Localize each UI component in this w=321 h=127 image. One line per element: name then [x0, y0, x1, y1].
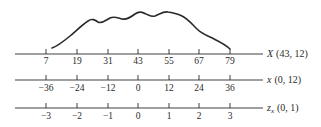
tick-label: 7 — [44, 56, 49, 66]
tick-label: 36 — [225, 83, 235, 93]
axis-label-z: zx(0, 1) — [266, 102, 299, 115]
axis-label-X: X(43, 12) — [266, 48, 308, 60]
tick-label: 12 — [164, 83, 174, 93]
distribution-curve — [52, 12, 230, 49]
tick-label: 67 — [194, 56, 204, 66]
tick-label: 31 — [103, 56, 113, 66]
tick-label: −3 — [41, 111, 51, 121]
tick-label: 55 — [164, 56, 174, 66]
axis-x-centered: −36 −24 −12 0 12 24 36 x(0, 12) — [15, 74, 301, 93]
tick-label: −2 — [72, 111, 82, 121]
tick-label: −36 — [39, 83, 54, 93]
tick-label: 79 — [225, 56, 235, 66]
axis-X: 7 19 31 43 55 67 79 X(43, 12) — [15, 48, 308, 66]
tick-label: −24 — [70, 83, 85, 93]
tick-label: 19 — [72, 56, 82, 66]
axis-z-standardized: −3 −2 −1 0 1 2 3 zx(0, 1) — [15, 102, 299, 121]
tick-label: −12 — [101, 83, 116, 93]
tick-label: 2 — [197, 111, 202, 121]
tick-label: 3 — [228, 111, 233, 121]
tick-label: 0 — [136, 83, 141, 93]
tick-label: 0 — [136, 111, 141, 121]
tick-label: −1 — [103, 111, 113, 121]
tick-label: 24 — [194, 83, 204, 93]
axis-label-x: x(0, 12) — [266, 74, 301, 86]
tick-label: 1 — [167, 111, 172, 121]
distribution-diagram: 7 19 31 43 55 67 79 X(43, 12) −36 −24 −1… — [0, 0, 321, 127]
tick-label: 43 — [133, 56, 143, 66]
